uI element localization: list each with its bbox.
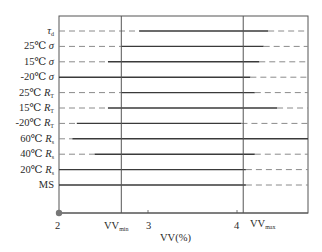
plot-frame xyxy=(59,16,308,213)
row-label: τd xyxy=(2,25,54,40)
row-label-prefix: 60℃ xyxy=(20,133,45,144)
row-label-subscript: T xyxy=(50,93,54,99)
reference-lines xyxy=(121,16,243,213)
row-label-subscript: T xyxy=(50,123,54,129)
row-label-symbol: σ xyxy=(49,40,54,51)
x-tick-vvmax-sub: max xyxy=(265,224,275,230)
row-label: -20℃ RT xyxy=(2,117,54,132)
row-label-symbol: σ xyxy=(49,56,54,67)
row-label-prefix: -20℃ xyxy=(16,117,44,128)
row-label-prefix: 40℃ xyxy=(20,148,45,159)
row-label-prefix: 15℃ xyxy=(19,102,44,113)
x-tick-vvmin: VVmin xyxy=(104,220,129,235)
plot-border xyxy=(59,16,308,213)
row-label-symbol: σ xyxy=(49,71,54,82)
x-tick-2: 2 xyxy=(55,220,60,232)
row-label-prefix: 25℃ xyxy=(24,40,49,51)
row-label-subscript: s xyxy=(52,139,54,145)
origin-dot xyxy=(56,210,62,216)
row-label-subscript: s xyxy=(52,170,54,176)
x-axis-title: VV(%) xyxy=(160,232,191,244)
row-label: 15℃ σ xyxy=(2,56,54,71)
row-label-subscript: s xyxy=(52,154,54,160)
row-label: 40℃ Rs xyxy=(2,148,54,163)
row-label: MS xyxy=(2,179,54,194)
row-label-subscript: d xyxy=(51,31,54,37)
row-label: 25℃ RT xyxy=(2,87,54,102)
x-tick-4: 4 xyxy=(234,220,239,232)
row-label-prefix: 15℃ xyxy=(24,56,49,67)
x-tick-vvmin-sub: min xyxy=(119,226,128,232)
row-label: 25℃ σ xyxy=(2,40,54,55)
row-label-prefix: MS xyxy=(39,179,54,190)
row-label: 20℃ Rs xyxy=(2,164,54,179)
row-label: 60℃ Rs xyxy=(2,133,54,148)
row-label-prefix: -20℃ xyxy=(20,71,48,82)
row-label-prefix: 25℃ xyxy=(19,87,44,98)
row-label: -20℃ σ xyxy=(2,71,54,86)
row-label-prefix: 20℃ xyxy=(20,164,45,175)
x-tick-vvmax: VVmax xyxy=(250,218,276,233)
row-label: 15℃ RT xyxy=(2,102,54,117)
x-tick-vvmax-main: VV xyxy=(250,218,265,229)
row-label-subscript: T xyxy=(50,108,54,114)
x-tick-vvmin-main: VV xyxy=(104,220,119,231)
x-tick-3: 3 xyxy=(146,220,151,232)
row-lines xyxy=(59,31,308,185)
